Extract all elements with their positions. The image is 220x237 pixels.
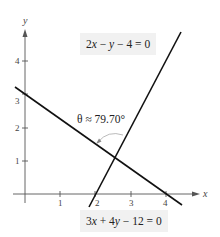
equation-label-line-1: 2x − y − 4 = 0 xyxy=(80,33,156,55)
x-tick-3: 3 xyxy=(129,198,134,208)
y-tick-4: 4 xyxy=(15,56,20,66)
x-axis: x 1 2 3 4 xyxy=(13,188,208,208)
y-axis-label: y xyxy=(22,15,28,26)
x-axis-label: x xyxy=(202,188,208,199)
y-tick-2: 2 xyxy=(15,123,20,133)
y-tick-1: 1 xyxy=(15,156,20,166)
eq1-rest: − 4 = 0 xyxy=(114,38,150,50)
angle-arc xyxy=(98,134,123,142)
eq2-rest: − 12 = 0 xyxy=(120,215,162,227)
x-tick-1: 1 xyxy=(58,198,63,208)
y-axis: y 1 2 3 4 xyxy=(15,15,28,203)
equation-label-line-2: 3x + 4y − 12 = 0 xyxy=(80,210,168,232)
eq2-op: + 4 xyxy=(97,215,115,227)
y-tick-3: 3 xyxy=(15,96,20,106)
x-axis-arrow-icon xyxy=(192,192,200,197)
x-tick-4: 4 xyxy=(163,198,168,208)
x-tick-2: 2 xyxy=(95,198,100,208)
eq1-op: − xyxy=(97,38,109,50)
y-axis-arrow-icon xyxy=(23,29,28,37)
angle-annotation: θ ≈ 79.70° xyxy=(77,113,125,125)
